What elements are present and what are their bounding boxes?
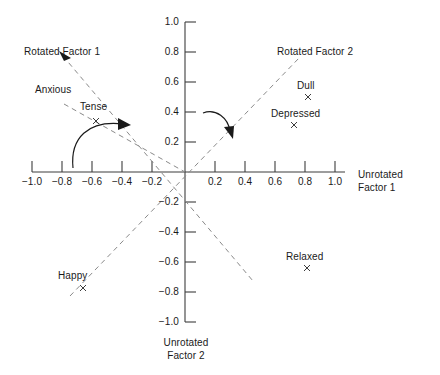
y-tick-label--1.0: −1.0 xyxy=(151,316,179,328)
x-tick-label-0.6: 0.6 xyxy=(264,176,286,188)
rotated-factor-2-label: Rotated Factor 2 xyxy=(277,46,353,58)
point-label-tense: Tense xyxy=(80,101,107,113)
y-tick-label-1.0: 1.0 xyxy=(153,16,179,28)
marker-happy[interactable] xyxy=(80,285,86,291)
y-axis-title-line1: Unrotated xyxy=(149,336,223,349)
point-label-anxious: Anxious xyxy=(35,84,71,96)
x-axis-title-line2: Factor 1 xyxy=(358,181,430,194)
y-tick-label-0.6: 0.6 xyxy=(153,76,179,88)
y-tick-label--0.8: −0.8 xyxy=(151,286,179,298)
x-tick-label-0.4: 0.4 xyxy=(234,176,256,188)
x-axis-ticks xyxy=(32,161,335,172)
y-tick-label-0.4: 0.4 xyxy=(153,106,179,118)
rotated-factor-1-label: Rotated Factor 1 xyxy=(24,46,100,58)
point-label-happy: Happy xyxy=(58,270,87,282)
x-axis-title: Unrotated Factor 1 xyxy=(358,168,430,194)
x-tick-label--0.4: −0.4 xyxy=(110,176,134,188)
x-tick-label--0.6: −0.6 xyxy=(80,176,104,188)
marker-tense[interactable] xyxy=(93,118,99,124)
y-tick-label-0.8: 0.8 xyxy=(153,46,179,58)
point-label-relaxed: Relaxed xyxy=(286,251,323,263)
marker-depressed[interactable] xyxy=(291,122,297,128)
y-tick-label-0.2: 0.2 xyxy=(153,136,179,148)
y-axis-title-line2: Factor 2 xyxy=(149,349,223,362)
x-axis-title-line1: Unrotated xyxy=(358,168,430,181)
point-label-depressed: Depressed xyxy=(271,108,320,120)
x-tick-label-1.0: 1.0 xyxy=(324,176,346,188)
x-tick-label-0.2: 0.2 xyxy=(204,176,226,188)
rotation-arrow-right xyxy=(203,112,234,139)
y-tick-label--0.6: −0.6 xyxy=(151,256,179,268)
x-tick-label--0.2: −0.2 xyxy=(140,176,164,188)
rotation-arrow-left xyxy=(73,118,131,168)
x-tick-label--1.0: −1.0 xyxy=(20,176,44,188)
y-tick-label--0.4: −0.4 xyxy=(151,226,179,238)
y-axis-title: Unrotated Factor 2 xyxy=(149,336,223,362)
point-label-dull: Dull xyxy=(297,80,315,92)
marker-dull[interactable] xyxy=(305,94,311,100)
chart-canvas: −1.0 −0.8 −0.6 −0.4 −0.2 0.2 0.4 0.6 0.8… xyxy=(0,0,440,375)
y-tick-label--0.2: −0.2 xyxy=(151,196,179,208)
marker-relaxed[interactable] xyxy=(304,265,310,271)
x-tick-label-0.8: 0.8 xyxy=(294,176,316,188)
x-tick-label--0.8: −0.8 xyxy=(50,176,74,188)
